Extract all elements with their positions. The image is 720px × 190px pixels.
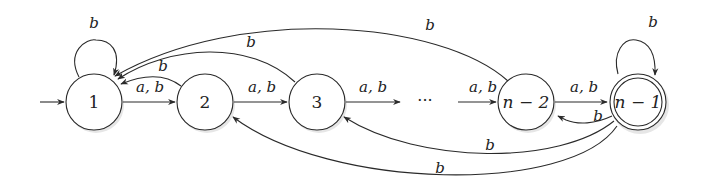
- automaton-diagram: 1 2 3 ··· n − 2 n − 1 b a, b a, b a, b a…: [0, 0, 720, 190]
- svg-text:n − 1: n − 1: [615, 92, 662, 112]
- label-2-1: b: [158, 57, 168, 75]
- label-n2-n1: a, b: [570, 78, 598, 96]
- edge-n1-n2: [558, 116, 612, 123]
- self-loop-n1: [616, 40, 655, 75]
- label-n2-1: b: [425, 16, 435, 34]
- node-2: 2: [177, 74, 233, 130]
- svg-text:3: 3: [312, 92, 323, 112]
- node-1: 1: [66, 74, 122, 130]
- node-n-2: n − 2: [498, 74, 554, 130]
- label-loop-1: b: [89, 14, 99, 32]
- svg-text:2: 2: [200, 92, 211, 112]
- label-2-3: a, b: [248, 78, 276, 96]
- self-loop-1: [75, 40, 117, 77]
- label-3-dots: a, b: [359, 78, 387, 96]
- label-n1-3: b: [485, 136, 495, 154]
- label-n1-2: b: [435, 159, 445, 177]
- svg-text:n − 2: n − 2: [503, 92, 550, 112]
- label-n1-n2: b: [593, 107, 603, 125]
- label-loop-n1: b: [648, 13, 658, 31]
- label-3-1: b: [246, 33, 256, 51]
- edge-n2-1: [115, 29, 508, 81]
- node-n-1-accepting: n − 1: [610, 74, 666, 130]
- ellipsis: ···: [417, 91, 432, 110]
- svg-text:1: 1: [89, 92, 100, 112]
- node-3: 3: [289, 74, 345, 130]
- label-dots-n2: a, b: [469, 78, 497, 96]
- edge-labels: b a, b a, b a, b a, b a, b b b b b b b b: [89, 13, 658, 177]
- backward-bottom-edges: [233, 116, 617, 175]
- label-1-2: a, b: [136, 78, 164, 96]
